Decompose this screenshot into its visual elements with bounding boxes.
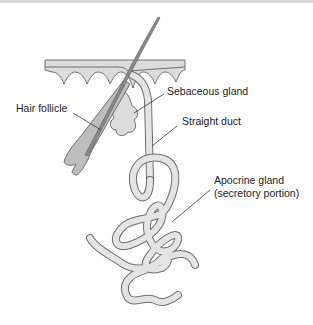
- leader-apocrine-gland: [172, 190, 210, 222]
- label-apocrine-gland: Apocrine gland: [214, 174, 284, 187]
- gland-illustration: [0, 0, 313, 325]
- label-hair-follicle: Hair follicle: [16, 102, 67, 115]
- label-sebaceous-gland: Sebaceous gland: [167, 85, 248, 98]
- label-secretory-portion: (secretory portion): [214, 187, 299, 200]
- label-straight-duct: Straight duct: [182, 115, 241, 128]
- diagram-root: Hair follicle Sebaceous gland Straight d…: [0, 0, 313, 325]
- skin-epidermis: [45, 60, 185, 88]
- leader-straight-duct: [152, 126, 177, 146]
- apocrine-coil: [90, 158, 195, 302]
